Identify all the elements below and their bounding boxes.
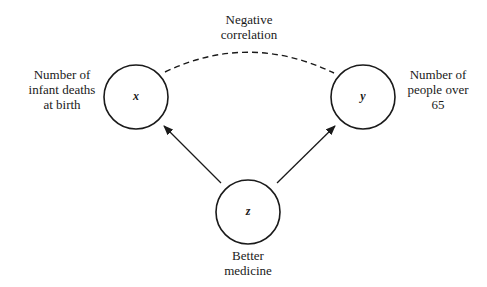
node-x-label: Number of infant deaths at birth [22,67,102,112]
node-x-label-line: at birth [22,97,102,112]
correlation-label-line: correlation [204,27,294,42]
node-y-symbol: y [353,89,373,104]
node-y-label-line: Number of [398,67,478,82]
node-z-label-line: medicine [208,263,288,278]
negative-correlation-curve [165,52,334,73]
correlation-label-line: Negative [204,12,294,27]
node-y-label-line: people over [398,82,478,97]
node-z-symbol: z [238,204,258,219]
node-y-label: Number of people over 65 [398,67,478,112]
arrow-z-to-x [164,126,221,183]
node-y-label-line: 65 [398,97,478,112]
node-x-symbol: x [126,89,146,104]
causal-diagram-canvas [0,0,487,287]
correlation-label: Negative correlation [204,12,294,42]
node-x-label-line: Number of [22,67,102,82]
arrow-z-to-y [277,126,335,183]
node-x-label-line: infant deaths [22,82,102,97]
node-z-label-line: Better [208,248,288,263]
node-z-label: Better medicine [208,248,288,278]
